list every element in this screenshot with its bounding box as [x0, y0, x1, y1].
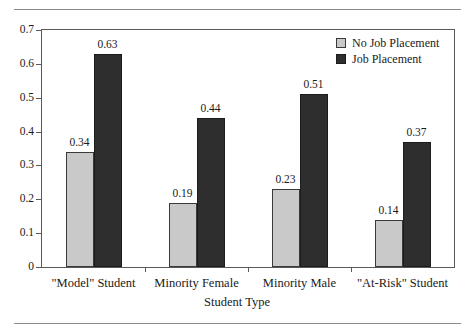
x-axis-category-label: "At-Risk" Student [357, 277, 448, 290]
y-axis-tick-label: 0.1 [20, 227, 34, 239]
y-axis-tick [36, 98, 42, 99]
y-axis-tick [36, 233, 42, 234]
y-axis-tick [36, 267, 42, 268]
x-axis-tick [145, 267, 146, 272]
bottom-rule [14, 323, 461, 324]
bar[interactable] [300, 94, 328, 267]
y-axis-tick-label: 0.4 [20, 126, 34, 138]
bar-value-label: 0.44 [200, 103, 220, 115]
y-axis-tick-label: 0.5 [20, 92, 34, 104]
legend-item[interactable]: No Job Placement [336, 36, 439, 50]
y-axis-tick [36, 165, 42, 166]
y-axis-tick [36, 199, 42, 200]
bar[interactable] [197, 118, 225, 267]
bar[interactable] [66, 152, 94, 267]
bar-value-label: 0.63 [97, 39, 117, 51]
x-axis-tick [351, 267, 352, 272]
bar[interactable] [403, 142, 431, 267]
bar-value-label: 0.19 [172, 188, 192, 200]
y-axis-tick-label: 0.6 [20, 58, 34, 70]
x-axis-category-label: "Model" Student [51, 277, 135, 290]
top-rule [14, 9, 461, 10]
x-axis-category-label: Minority Female [154, 277, 238, 290]
bar[interactable] [272, 189, 300, 267]
y-axis-tick-label: 0.3 [20, 160, 34, 172]
x-axis-category-label: Minority Male [263, 277, 336, 290]
y-axis-tick [36, 132, 42, 133]
legend-swatch-icon [336, 38, 346, 48]
y-axis-tick [36, 30, 42, 31]
bar[interactable] [94, 54, 122, 267]
x-axis-title: Student Type [0, 296, 474, 309]
legend-label: No Job Placement [352, 37, 439, 49]
bar[interactable] [169, 203, 197, 267]
bar[interactable] [375, 220, 403, 267]
chart-legend: No Job PlacementJob Placement [336, 36, 439, 68]
legend-swatch-icon [336, 54, 346, 64]
bar-value-label: 0.23 [275, 174, 295, 186]
legend-label: Job Placement [352, 53, 422, 65]
bar-value-label: 0.37 [406, 127, 426, 139]
y-axis-tick-label: 0.7 [20, 24, 34, 36]
bar-value-label: 0.14 [378, 205, 398, 217]
y-axis-tick [36, 64, 42, 65]
x-axis-tick [248, 267, 249, 272]
legend-item[interactable]: Job Placement [336, 52, 439, 66]
y-axis-tick-label: 0 [28, 261, 34, 273]
figure: 00.10.20.30.40.50.60.7 0.340.630.190.440… [0, 0, 474, 335]
bar-value-label: 0.51 [303, 79, 323, 91]
y-axis-tick-label: 0.2 [20, 194, 34, 206]
bar-value-label: 0.34 [69, 137, 89, 149]
